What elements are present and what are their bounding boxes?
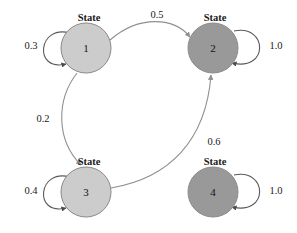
state-2-number: 2	[210, 42, 216, 54]
state-4-number: 4	[210, 186, 216, 198]
weight-label-state3-to-state2: 0.6	[207, 136, 220, 147]
state-1-caption: State	[78, 12, 101, 23]
weight-label-state1-to-state3: 0.2	[36, 113, 49, 124]
node-state-1[interactable]: State 1	[61, 12, 111, 73]
node-state-4[interactable]: State 4	[188, 156, 238, 217]
node-state-2[interactable]: State 2	[188, 12, 238, 73]
state-4-caption: State	[204, 156, 227, 167]
weight-label-state3-self: 0.4	[24, 185, 38, 196]
node-state-3[interactable]: State 3	[61, 156, 111, 217]
edge-state1-to-state2	[110, 22, 190, 40]
edge-state1-to-state3	[62, 73, 81, 165]
state-3-number: 3	[83, 186, 89, 198]
state-diagram: State 1 State 2 State 3 State 4 0.3 0.5 …	[0, 0, 297, 233]
state-3-caption: State	[78, 156, 101, 167]
state-2-caption: State	[204, 12, 227, 23]
weight-label-state4-self: 1.0	[269, 185, 282, 196]
diagram-canvas: State 1 State 2 State 3 State 4 0.3 0.5 …	[0, 0, 297, 233]
edge-state3-to-state2	[111, 75, 211, 188]
weight-label-state1-to-state2: 0.5	[150, 9, 163, 20]
weight-label-state2-self: 1.0	[269, 40, 282, 51]
state-1-number: 1	[83, 42, 89, 54]
weight-label-state1-self: 0.3	[24, 40, 37, 51]
